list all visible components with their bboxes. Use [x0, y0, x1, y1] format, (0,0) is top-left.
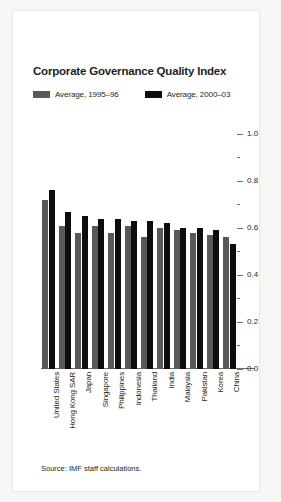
tick-mark — [237, 369, 243, 370]
bar — [180, 228, 186, 369]
bar — [230, 244, 236, 369]
bar — [115, 219, 121, 369]
bar — [131, 221, 137, 369]
bar — [164, 223, 170, 369]
legend-swatch-series-0 — [33, 91, 50, 98]
x-axis-label-cell: China — [222, 372, 237, 434]
plot-area — [41, 134, 237, 369]
bar-group — [107, 134, 122, 369]
bar — [98, 219, 104, 369]
x-axis-label-cell: Thailand — [140, 372, 155, 434]
x-axis-label-cell: Pakistan — [189, 372, 204, 434]
bar-group — [140, 134, 155, 369]
bar-group — [189, 134, 204, 369]
bar — [65, 212, 71, 369]
y-axis: 1.00.80.60.40.20.0 — [237, 134, 281, 370]
x-axis-label-cell: Indonesia — [123, 372, 138, 434]
figure-panel-inner: Corporate Governance Quality Index Avera… — [13, 11, 259, 491]
bar — [157, 228, 163, 369]
y-axis-tick-label: 0.0 — [247, 365, 258, 373]
legend-entry-series-0: Average, 1995–96 — [33, 90, 119, 99]
bar-group — [90, 134, 105, 369]
tick-mark — [237, 251, 240, 252]
bar — [190, 233, 196, 369]
bar — [147, 221, 153, 369]
bar-group — [74, 134, 89, 369]
tick-mark — [237, 204, 240, 205]
x-axis-label-cell: United States — [41, 372, 56, 434]
y-axis-tick-label: 0.8 — [247, 177, 258, 185]
tick-mark — [237, 181, 243, 182]
figure-page: Corporate Governance Quality Index Avera… — [0, 0, 281, 502]
figure-panel: Corporate Governance Quality Index Avera… — [12, 10, 260, 492]
bar — [75, 233, 81, 369]
chart-legend: Average, 1995–96 Average, 2000–03 — [33, 90, 251, 99]
bar — [141, 237, 147, 369]
x-axis-label-cell: Singapore — [90, 372, 105, 434]
bar — [207, 235, 213, 369]
bar-group — [123, 134, 138, 369]
bar-group — [173, 134, 188, 369]
bar — [42, 200, 48, 369]
x-axis-label-cell: Malaysia — [173, 372, 188, 434]
bar-group — [222, 134, 237, 369]
tick-mark — [237, 157, 240, 158]
legend-entry-series-1: Average, 2000–03 — [145, 90, 231, 99]
bar-group — [41, 134, 56, 369]
x-axis-label-cell: Korea — [206, 372, 221, 434]
bar — [59, 226, 65, 369]
bar-groups — [41, 134, 237, 369]
bar — [82, 216, 88, 369]
x-axis-label-cell: Hong Kong SAR — [57, 372, 72, 434]
y-axis-tick-label: 0.2 — [247, 318, 258, 326]
x-axis-label-cell: India — [156, 372, 171, 434]
x-axis-label: China — [232, 372, 241, 392]
bar-group — [156, 134, 171, 369]
source-note: Source: IMF staff calculations. — [41, 464, 141, 473]
bar — [92, 226, 98, 369]
bar-group — [206, 134, 221, 369]
tick-mark — [237, 275, 243, 276]
bar-group — [57, 134, 72, 369]
bar — [223, 237, 229, 369]
bar — [213, 230, 219, 369]
bar — [125, 226, 131, 369]
tick-mark — [237, 298, 240, 299]
tick-mark — [237, 134, 243, 135]
bar — [174, 230, 180, 369]
x-axis-label-cell: Philippines — [107, 372, 122, 434]
y-axis-tick-label: 1.0 — [247, 130, 258, 138]
y-axis-tick-label: 0.6 — [247, 224, 258, 232]
y-axis-tick-label: 0.4 — [247, 271, 258, 279]
bar — [49, 190, 55, 369]
legend-label-series-0: Average, 1995–96 — [55, 90, 119, 99]
bar — [108, 233, 114, 369]
tick-mark — [237, 322, 243, 323]
tick-mark — [237, 228, 243, 229]
bar — [197, 228, 203, 369]
tick-mark — [237, 345, 240, 346]
x-axis-labels: United StatesHong Kong SARJapanSingapore… — [41, 372, 237, 434]
x-axis-label-cell: Japan — [74, 372, 89, 434]
legend-label-series-1: Average, 2000–03 — [167, 90, 231, 99]
chart-title: Corporate Governance Quality Index — [33, 65, 226, 77]
legend-swatch-series-1 — [145, 91, 162, 98]
